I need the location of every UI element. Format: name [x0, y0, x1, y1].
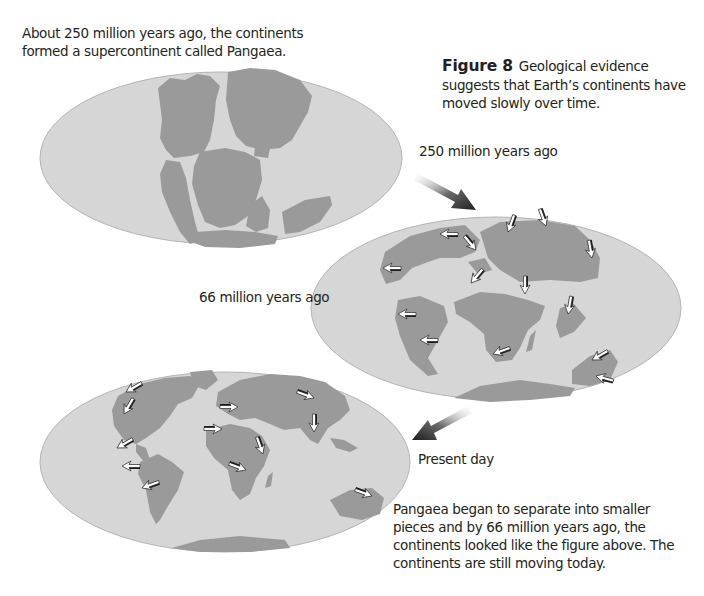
figure-label: Figure 8 [442, 57, 513, 75]
map-pangaea [40, 68, 402, 248]
label-250-million-years: 250 million years ago [419, 142, 558, 160]
bottom-explanation-text: Pangaea began to separate into smaller p… [393, 500, 693, 572]
label-present-day: Present day [418, 450, 494, 468]
label-66-million-years: 66 million years ago [199, 288, 329, 306]
transition-arrow-1-icon [414, 173, 476, 210]
intro-text: About 250 million years ago, the contine… [22, 24, 342, 60]
map-present-day [40, 370, 410, 552]
figure-caption: Figure 8Geological evidence suggests tha… [442, 57, 704, 113]
map-66-million-years [311, 207, 681, 402]
transition-arrow-2-icon [412, 406, 472, 440]
